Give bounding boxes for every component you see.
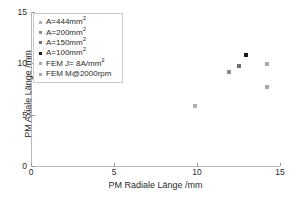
legend-marker-icon [39, 21, 42, 24]
legend-item-label: A=200mm2 [46, 29, 86, 37]
data-point [193, 104, 197, 108]
legend-item-label: A=444mm2 [46, 18, 86, 26]
legend-item: A=100mm2 [38, 48, 119, 58]
legend-item-label: FEM M@2000rpm [46, 70, 111, 78]
x-tick [280, 163, 281, 166]
data-point [265, 85, 269, 89]
x-axis-line [31, 166, 280, 167]
data-point [244, 53, 248, 57]
legend-marker-icon [39, 41, 42, 44]
legend-item-label: FEM J= 8A/mm2 [46, 60, 105, 68]
legend-marker-icon [39, 31, 42, 34]
chart-legend: A=444mm2A=200mm2A=150mm2A=100mm2FEM J= 8… [33, 13, 123, 83]
scatter-chart: 051015051015 A=444mm2A=200mm2A=150mm2A=1… [0, 0, 296, 197]
legend-item: A=444mm2 [38, 17, 119, 27]
legend-item: FEM J= 8A/mm2 [38, 59, 119, 69]
x-tick-label: 10 [192, 168, 201, 177]
legend-item: A=200mm2 [38, 27, 119, 37]
x-tick-label: 15 [275, 168, 284, 177]
legend-marker-icon [39, 52, 42, 55]
data-point [227, 70, 231, 74]
x-tick-label: 5 [112, 168, 117, 177]
legend-marker-icon [39, 62, 42, 65]
data-point [265, 62, 269, 66]
data-point [237, 64, 241, 68]
legend-item: A=150mm2 [38, 38, 119, 48]
x-axis-title: PM Radiale Länge /mm [31, 180, 280, 190]
legend-item-label: A=150mm2 [46, 39, 86, 47]
y-axis-title: PM Axiale Länge /mm [23, 14, 33, 174]
legend-item-label: A=100mm2 [46, 49, 86, 57]
legend-item: FEM M@2000rpm [38, 69, 119, 79]
legend-marker-icon [39, 73, 42, 76]
